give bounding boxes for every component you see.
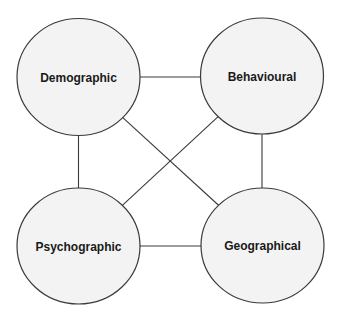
- node-demographic: Demographic: [17, 19, 140, 136]
- psychographic-label: Psychographic: [35, 240, 121, 254]
- demographic-label: Demographic: [40, 71, 117, 85]
- segmentation-diagram: Demographic Behavioural Psychographic Ge…: [0, 0, 342, 322]
- geographical-label: Geographical: [224, 239, 301, 253]
- node-behavioural: Behavioural: [201, 18, 324, 134]
- node-psychographic: Psychographic: [17, 188, 140, 304]
- node-geographical: Geographical: [201, 188, 324, 303]
- behavioural-label: Behavioural: [228, 70, 297, 84]
